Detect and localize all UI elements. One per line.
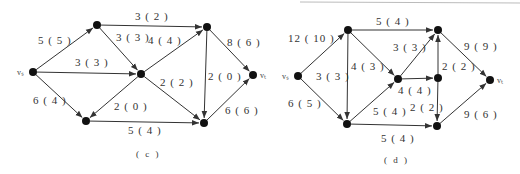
edge-capacity-flow-label: 5 ( 4 ) — [381, 132, 415, 145]
scan-border-line — [300, 2, 520, 3]
edge-capacity-flow-label: 3 ( 3 ) — [316, 70, 350, 83]
edge-capacity-flow-label: 2 ( 2 ) — [410, 101, 444, 114]
edge-capacity-flow-label: 2 ( 0 ) — [114, 100, 148, 113]
edge-capacity-flow-label: 5 ( 4 ) — [373, 105, 407, 118]
graph-layer: 5 ( 5 )3 ( 3 )6 ( 4 )3 ( 2 )3 ( 3 )4 ( 4… — [17, 10, 503, 165]
edge-capacity-flow-label: 4 ( 4 ) — [148, 34, 182, 47]
edge-c-e — [90, 121, 199, 123]
edge-capacity-flow-label: 3 ( 3 ) — [75, 56, 109, 69]
edge-b-f — [351, 124, 432, 126]
edge-capacity-flow-label: 3 ( 3 ) — [393, 41, 427, 54]
edge-d-e — [204, 31, 207, 118]
edge-capacity-flow-label: 2 ( 2 ) — [160, 76, 194, 89]
node-c — [82, 117, 90, 125]
sink-node-label: vₜ — [260, 71, 266, 80]
node-a — [93, 21, 101, 29]
edge-capacity-flow-label: 6 ( 4 ) — [33, 94, 67, 107]
edge-capacity-flow-label: 3 ( 2 ) — [135, 10, 169, 23]
node-e — [434, 74, 442, 82]
edge-capacity-flow-label: 6 ( 6 ) — [225, 104, 259, 117]
node-b — [137, 70, 145, 78]
figure-caption: ( d ) — [384, 155, 409, 165]
edge-capacity-flow-label: 4 ( 4 ) — [398, 84, 432, 97]
node-e — [200, 119, 208, 127]
edge-vs-b — [37, 72, 136, 74]
edge-capacity-flow-label: 5 ( 4 ) — [128, 124, 162, 137]
edge-capacity-flow-label: 3 ( 3 ) — [116, 31, 150, 44]
node-d — [434, 26, 442, 34]
node-vs — [29, 68, 37, 76]
edge-capacity-flow-label: 9 ( 9 ) — [464, 40, 498, 53]
edge-capacity-flow-label: 12 ( 10 ) — [288, 32, 335, 45]
node-d — [203, 23, 211, 31]
edge-c-e — [402, 78, 433, 79]
node-b — [343, 120, 351, 128]
network-c: 5 ( 5 )3 ( 3 )6 ( 4 )3 ( 2 )3 ( 3 )4 ( 4… — [17, 10, 266, 159]
figure-caption: ( c ) — [136, 149, 161, 159]
source-node-label: vₛ — [282, 72, 289, 81]
network-d: 12 ( 10 )6 ( 5 )5 ( 4 )4 ( 3 )3 ( 3 )3 (… — [282, 15, 503, 165]
source-node-label: vₛ — [17, 68, 24, 77]
edge-capacity-flow-label: 4 ( 3 ) — [351, 60, 385, 73]
edge-capacity-flow-label: 8 ( 6 ) — [227, 36, 261, 49]
sink-node-label: vₜ — [497, 76, 503, 85]
edge-capacity-flow-label: 2 ( 0 ) — [208, 70, 242, 83]
edge-capacity-flow-label: 5 ( 4 ) — [376, 15, 410, 28]
flow-network-figure: 5 ( 5 )3 ( 3 )6 ( 4 )3 ( 2 )3 ( 3 )4 ( 4… — [0, 0, 520, 174]
node-vs — [294, 72, 302, 80]
node-vt — [486, 76, 494, 84]
node-f — [433, 122, 441, 130]
edge-capacity-flow-label: 9 ( 6 ) — [464, 108, 498, 121]
node-a — [344, 26, 352, 34]
edge-capacity-flow-label: 6 ( 5 ) — [288, 97, 322, 110]
node-c — [394, 75, 402, 83]
edge-capacity-flow-label: 5 ( 5 ) — [38, 34, 72, 47]
edge-a-d — [101, 25, 202, 27]
node-vt — [249, 71, 257, 79]
